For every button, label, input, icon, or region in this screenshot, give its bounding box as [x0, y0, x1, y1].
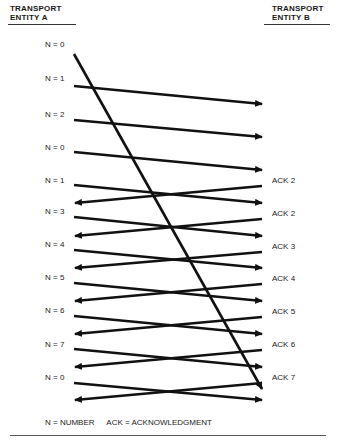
legend: N = NUMBER ACK = ACKNOWLEDGMENT	[45, 418, 222, 427]
data-arrow-n2	[74, 120, 262, 137]
legend-n: N = NUMBER	[45, 418, 95, 427]
sequence-diagram	[0, 0, 338, 441]
data-arrow-n1	[74, 86, 262, 104]
bottom-divider	[10, 435, 326, 436]
legend-ack: ACK = ACKNOWLEDGMENT	[106, 418, 212, 427]
data-arrow-n0	[74, 152, 262, 170]
